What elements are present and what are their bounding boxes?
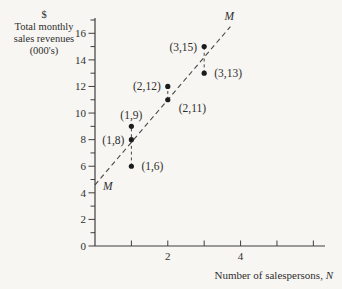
data-point — [202, 44, 207, 49]
x-tick-label: 4 — [238, 250, 244, 262]
data-point — [202, 71, 207, 76]
data-point-label: (2,12) — [133, 80, 161, 93]
y-axis-title-line: (000's) — [2, 45, 86, 57]
data-point-label: (3,13) — [214, 67, 242, 80]
data-point-label: (1,6) — [141, 160, 163, 173]
data-point — [129, 164, 134, 169]
x-axis-title-text: Number of salespersons, — [214, 269, 325, 281]
x-axis-variable: N — [326, 269, 333, 281]
y-tick-label: 2 — [81, 213, 87, 225]
fitted-line-label-bottom: M — [102, 180, 114, 192]
data-point — [129, 124, 134, 129]
y-tick-label: 0 — [81, 240, 87, 252]
y-axis-title-line: Total monthly — [2, 21, 86, 33]
y-axis-title-currency: $ — [2, 9, 86, 21]
x-tick-label: 2 — [165, 250, 171, 262]
data-point — [129, 137, 134, 142]
y-tick-label: 8 — [81, 133, 87, 145]
x-axis-title: Number of salespersons, N — [214, 269, 333, 281]
y-tick-label: 10 — [75, 107, 87, 119]
data-point-label: (3,15) — [169, 41, 197, 54]
data-point — [165, 84, 170, 89]
data-point-label: (1,9) — [120, 109, 142, 122]
data-point — [165, 97, 170, 102]
data-point-label: (2,11) — [179, 102, 207, 115]
y-tick-label: 4 — [81, 187, 87, 199]
y-axis-title: $ Total monthly sales revenues (000's) — [2, 9, 86, 57]
scatter-chart-figure: $ Total monthly sales revenues (000's) M… — [0, 0, 342, 289]
y-tick-label: 6 — [81, 160, 87, 172]
fitted-line-label-top: M — [224, 10, 236, 22]
data-point-label: (1,8) — [102, 134, 124, 147]
y-tick-label: 12 — [75, 80, 86, 92]
y-axis-title-line: sales revenues — [2, 33, 86, 45]
